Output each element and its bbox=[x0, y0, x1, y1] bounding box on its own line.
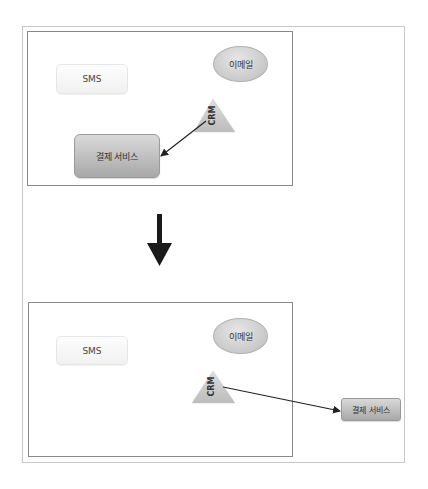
connector-crm-to-payment-before bbox=[161, 121, 206, 156]
crm-label-after: CRM bbox=[207, 377, 216, 397]
connector-crm-to-payment-after bbox=[223, 387, 340, 411]
down-arrow-icon bbox=[147, 214, 172, 266]
crm-label-before: CRM bbox=[208, 106, 217, 126]
diagram-shapes bbox=[0, 0, 428, 489]
